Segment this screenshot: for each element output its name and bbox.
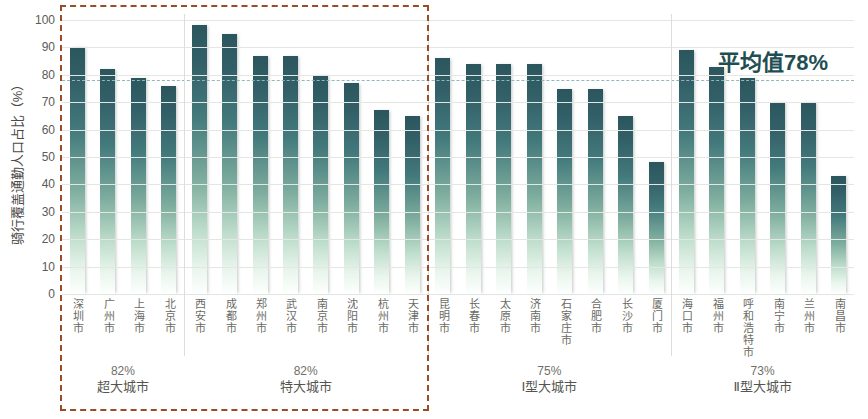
gridline	[62, 267, 854, 268]
y-axis-tick-label: 0	[21, 287, 55, 301]
bar-fill	[222, 34, 237, 294]
y-axis-tick-label: 100	[21, 13, 55, 27]
group-average-percent: 73%	[671, 364, 854, 379]
bar-fill	[527, 64, 542, 294]
group-name: 超大城市	[62, 379, 184, 395]
group-average-percent: 82%	[62, 364, 184, 379]
x-axis-tick-label: 沈阳市	[344, 298, 358, 334]
bar-fill	[588, 89, 603, 295]
bicycle-commuting-bar-chart: 骑行覆盖通勤人口占比（%） 0102030405060708090100 深圳市…	[0, 0, 868, 419]
bar[interactable]	[344, 83, 359, 294]
group-average-percent: 82%	[184, 364, 428, 379]
gridline	[62, 20, 854, 21]
x-axis-tick-label: 南京市	[314, 298, 328, 334]
x-axis-tick-label: 成都市	[223, 298, 237, 334]
bar[interactable]	[770, 102, 785, 294]
y-axis-tick-label: 40	[21, 177, 55, 191]
bar[interactable]	[527, 64, 542, 294]
x-axis-tick-label: 南宁市	[771, 298, 785, 334]
gridline	[62, 130, 854, 131]
bar[interactable]	[740, 78, 755, 294]
bar[interactable]	[679, 50, 694, 294]
bar-fill	[770, 102, 785, 294]
group-footer: 82%超大城市	[62, 364, 184, 395]
average-line	[62, 80, 854, 81]
bar-fill	[253, 56, 268, 294]
x-axis-tick-label: 杭州市	[375, 298, 389, 334]
bar[interactable]	[649, 162, 664, 294]
bar-fill	[496, 64, 511, 294]
y-axis-tick-label: 20	[21, 232, 55, 246]
gridline	[62, 157, 854, 158]
x-axis-tick-label: 合肥市	[588, 298, 602, 334]
group-footer: 82%特大城市	[184, 364, 428, 395]
bar[interactable]	[283, 56, 298, 294]
bar-fill	[557, 89, 572, 295]
y-axis-tick-label: 70	[21, 95, 55, 109]
bar-fill	[283, 56, 298, 294]
y-axis-tick-label: 10	[21, 260, 55, 274]
bar[interactable]	[253, 56, 268, 294]
group-name: Ⅱ型大城市	[671, 379, 854, 395]
bar[interactable]	[70, 47, 85, 294]
group-separator	[671, 14, 672, 356]
gridline	[62, 102, 854, 103]
group-footer: 75%Ⅰ型大城市	[428, 364, 672, 395]
bar-fill	[801, 102, 816, 294]
gridline	[62, 239, 854, 240]
bar[interactable]	[557, 89, 572, 295]
x-axis-tick-label: 天津市	[405, 298, 419, 334]
bar[interactable]	[192, 25, 207, 294]
bar-fill	[131, 78, 146, 294]
x-axis-tick-label: 上海市	[131, 298, 145, 334]
x-axis-tick-label: 厦门市	[649, 298, 663, 334]
x-axis-tick-label: 济南市	[527, 298, 541, 334]
y-axis-tick-label: 30	[21, 205, 55, 219]
bar-fill	[649, 162, 664, 294]
group-separator	[184, 14, 185, 356]
bar[interactable]	[222, 34, 237, 294]
x-axis-tick-label: 西安市	[192, 298, 206, 334]
y-axis-tick-label: 90	[21, 40, 55, 54]
average-value-annotation: 平均值78%	[718, 44, 828, 76]
x-axis-tick-label: 昆明市	[436, 298, 450, 334]
x-axis-tick-label: 武汉市	[283, 298, 297, 334]
bar[interactable]	[161, 86, 176, 294]
bar[interactable]	[801, 102, 816, 294]
bar[interactable]	[466, 64, 481, 294]
x-axis-tick-label: 福州市	[710, 298, 724, 334]
gridline	[62, 294, 854, 295]
bar-fill	[161, 86, 176, 294]
x-axis-tick-label: 郑州市	[253, 298, 267, 334]
x-axis-tick-label: 石家庄市	[558, 298, 572, 346]
x-axis-tick-label: 呼和浩特市	[740, 298, 754, 358]
bar-fill	[831, 176, 846, 294]
y-axis-tick-label: 50	[21, 150, 55, 164]
bar[interactable]	[709, 67, 724, 294]
group-average-percent: 75%	[428, 364, 672, 379]
bar[interactable]	[496, 64, 511, 294]
x-axis-tick-label: 长沙市	[619, 298, 633, 334]
x-axis-category-labels: 深圳市广州市上海市北京市西安市成都市郑州市武汉市南京市沈阳市杭州市天津市昆明市长…	[62, 298, 854, 356]
x-axis-tick-label: 海口市	[679, 298, 693, 334]
bar-fill	[435, 58, 450, 294]
x-axis-tick-label: 长春市	[466, 298, 480, 334]
bar-fill	[192, 25, 207, 294]
group-separator	[428, 14, 429, 356]
x-axis-tick-label: 广州市	[101, 298, 115, 334]
bar[interactable]	[131, 78, 146, 294]
group-name: Ⅰ型大城市	[428, 379, 672, 395]
bar-fill	[740, 78, 755, 294]
group-name: 特大城市	[184, 379, 428, 395]
bar[interactable]	[831, 176, 846, 294]
bar-fill	[709, 67, 724, 294]
gridline	[62, 184, 854, 185]
bar[interactable]	[588, 89, 603, 295]
x-axis-tick-label: 兰州市	[801, 298, 815, 334]
x-axis-tick-label: 深圳市	[70, 298, 84, 334]
x-axis-tick-label: 南昌市	[832, 298, 846, 334]
y-axis-tick-label: 60	[21, 123, 55, 137]
bar[interactable]	[435, 58, 450, 294]
x-axis-tick-label: 北京市	[162, 298, 176, 334]
bar-fill	[70, 47, 85, 294]
